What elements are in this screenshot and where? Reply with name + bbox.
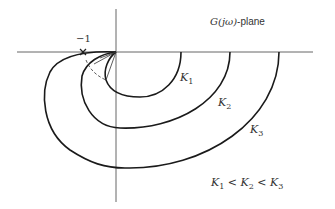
curve-k1 [105,52,181,97]
curve-k3 [45,52,279,168]
k-sub: 1 [188,77,193,86]
k-base: K [180,71,188,84]
curve-label-k2: K2 [218,96,231,111]
k-sub: 2 [226,102,231,111]
curve-label-k1: K1 [180,71,193,86]
k-base: K [250,123,258,136]
rel-op: < [254,176,270,189]
k-base: K [218,96,226,109]
rel-k: K [241,176,249,189]
gain-relation: K1 < K2 < K3 [211,176,283,191]
rel-sub: 3 [278,182,283,191]
nyquist-diagram [0,0,335,209]
rel-k: K [211,176,219,189]
plane-func: G(jω) [210,16,237,27]
rel-op: < [224,176,240,189]
curve-k2 [81,52,230,128]
critical-point-label: −1 [76,33,91,44]
plane-suffix: -plane [237,16,265,27]
curve-label-k3: K3 [250,123,263,138]
plane-label: G(jω)-plane [210,16,265,27]
k-sub: 3 [258,129,263,138]
